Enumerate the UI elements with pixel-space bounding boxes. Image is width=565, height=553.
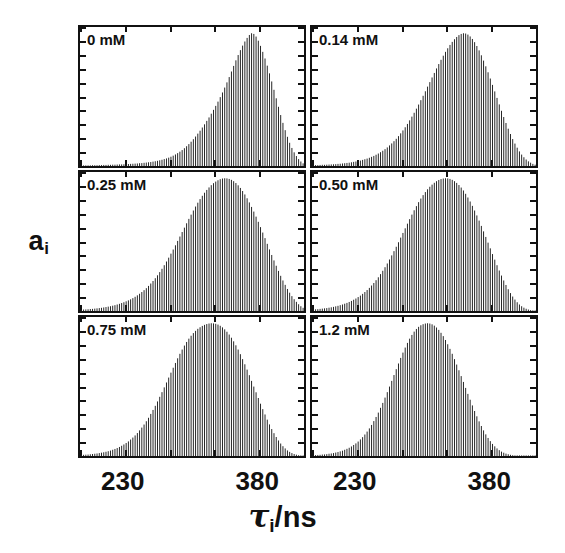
x-axis-tick-label: 230 <box>101 466 144 497</box>
panel-concentration-label: 0 mM <box>87 31 125 48</box>
y-axis-tick <box>530 166 536 168</box>
y-axis-label-main: a <box>29 226 45 256</box>
lifetime-distribution-figure: ai 0 mM0.14 mM0.25 mM0.50 mM0.75 mM1.2 m… <box>0 0 565 553</box>
y-axis-tick <box>312 166 318 168</box>
y-axis-label: ai <box>8 226 70 259</box>
panel-concentration-label: 1.2 mM <box>319 321 370 338</box>
plot-panel-0-mm: 0 mM <box>78 25 306 168</box>
plot-panel-0-25-mm: 0.25 mM <box>78 170 306 313</box>
y-axis-tick <box>298 166 304 168</box>
x-axis-label-tau: τ <box>248 498 269 534</box>
plot-panel-0-14-mm: 0.14 mM <box>310 25 538 168</box>
x-axis-tick-label: 380 <box>235 466 278 497</box>
panel-concentration-label: 0.75 mM <box>87 321 146 338</box>
y-axis-tick <box>312 456 318 458</box>
panel-concentration-label: 0.25 mM <box>87 176 146 193</box>
x-axis-tick-labels: 230380 <box>310 462 538 498</box>
plot-panel-0-75-mm: 0.75 mM <box>78 315 306 458</box>
panel-concentration-label: 0.50 mM <box>319 176 378 193</box>
x-axis-tick-labels: 230380 <box>78 462 306 498</box>
plot-panel-0-50-mm: 0.50 mM <box>310 170 538 313</box>
x-axis-tick-label: 380 <box>467 466 510 497</box>
plot-panel-1-2-mm: 1.2 mM <box>310 315 538 458</box>
y-axis-tick <box>80 456 86 458</box>
y-axis-label-subscript: i <box>44 239 49 258</box>
y-axis-tick <box>530 311 536 313</box>
y-axis-tick <box>298 456 304 458</box>
y-axis-tick <box>530 456 536 458</box>
y-axis-tick <box>80 311 86 313</box>
y-axis-tick <box>298 311 304 313</box>
x-axis-label-unit: /ns <box>275 501 317 533</box>
panel-concentration-label: 0.14 mM <box>319 31 378 48</box>
x-axis-label: τi/ns <box>0 498 565 537</box>
y-axis-tick <box>80 166 86 168</box>
x-axis-tick-label: 230 <box>333 466 376 497</box>
panel-grid: 0 mM0.14 mM0.25 mM0.50 mM0.75 mM1.2 mM23… <box>78 25 538 460</box>
y-axis-tick <box>312 311 318 313</box>
